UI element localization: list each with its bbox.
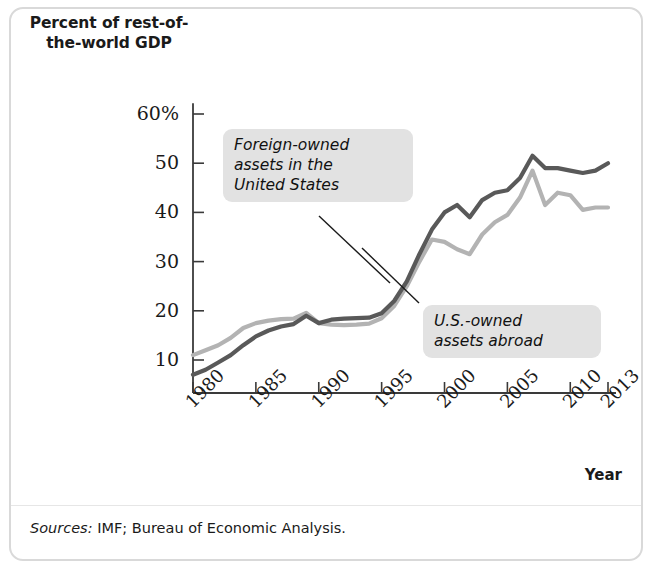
x-tick-label: 1995 <box>370 365 417 412</box>
chart-canvas: 102030405060%198019851990199520002005201… <box>0 0 654 577</box>
sources-note: Sources: IMF; Bureau of Economic Analysi… <box>30 520 346 536</box>
annotation-us-owned: U.S.-owned assets abroad <box>423 305 601 358</box>
figure-page: Percent of rest-of-the-world GDP 1020304… <box>0 0 654 577</box>
y-tick-label: 60% <box>137 102 179 124</box>
y-tick-label: 10 <box>155 348 179 370</box>
x-tick-label: 2010 <box>558 365 605 412</box>
annotation-foreign-owned: Foreign-owned assets in the United State… <box>223 129 413 202</box>
sources-label: Sources: <box>30 520 93 536</box>
y-tick-label: 40 <box>155 200 179 222</box>
x-axis-title: Year <box>585 466 622 484</box>
x-tick-label: 2013 <box>596 365 643 412</box>
leader-line-foreign <box>319 216 390 283</box>
x-tick-label: 1985 <box>244 365 291 412</box>
y-tick-label: 50 <box>155 151 179 173</box>
sources-text: IMF; Bureau of Economic Analysis. <box>97 520 346 536</box>
x-tick-label: 2005 <box>495 365 542 412</box>
x-tick-label: 2000 <box>432 365 479 412</box>
x-tick-label: 1990 <box>307 365 354 412</box>
y-tick-label: 20 <box>155 299 179 321</box>
y-tick-label: 30 <box>155 250 179 272</box>
footer-divider <box>11 505 641 506</box>
